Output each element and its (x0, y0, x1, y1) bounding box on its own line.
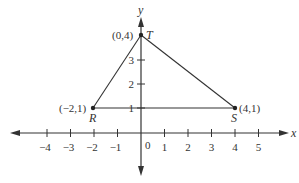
x-tick-label: 2 (185, 141, 191, 153)
y-tick-labels: 1 2 3 (129, 54, 135, 114)
y-axis-up-arrow-icon (138, 17, 144, 27)
segment-TR (93, 35, 141, 108)
y-axis-down-arrow-icon (138, 166, 144, 176)
x-axis: x (10, 126, 297, 140)
x-tick-label: 3 (209, 141, 215, 153)
x-tick-label: −3 (63, 141, 75, 153)
segment-TS (141, 35, 235, 108)
y-axis-label: y (137, 3, 144, 17)
point-R-coords: (−2,1) (59, 102, 87, 115)
point-T-name: T (146, 28, 154, 42)
x-tick-label: −1 (110, 141, 122, 153)
point-S-dot-icon (233, 106, 237, 110)
point-R-name: R (88, 111, 97, 125)
coordinate-diagram: x y −4 −3 −2 −1 1 2 3 4 5 0 1 2 (0, 0, 299, 183)
x-tick-label: 1 (162, 141, 168, 153)
y-tick-label: 3 (129, 54, 135, 66)
x-axis-left-arrow-icon (10, 130, 20, 136)
point-T-dot-icon (139, 33, 143, 37)
point-R: (−2,1) R (59, 102, 97, 125)
point-T: (0,4) T (112, 28, 154, 42)
x-tick-label: 5 (256, 141, 262, 153)
x-tick-label: −4 (39, 141, 51, 153)
point-S-coords: (4,1) (239, 102, 260, 115)
x-tick-label: −2 (86, 141, 98, 153)
point-S-name: S (231, 111, 237, 125)
point-R-dot-icon (91, 106, 95, 110)
origin-label: 0 (145, 139, 151, 151)
y-axis: y (137, 3, 144, 176)
x-tick-label: 4 (232, 141, 238, 153)
point-S: (4,1) S (231, 102, 260, 125)
point-T-coords: (0,4) (112, 29, 133, 42)
triangle-RST (93, 35, 235, 108)
y-tick-label: 2 (129, 78, 135, 90)
x-axis-right-arrow-icon (279, 130, 289, 136)
x-axis-label: x (290, 126, 297, 140)
